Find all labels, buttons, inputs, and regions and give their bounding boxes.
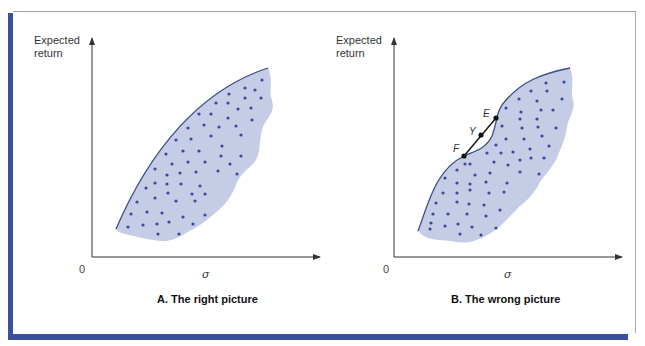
panel-a-origin-label: 0 (79, 263, 85, 275)
panel-a-caption: A. The right picture (157, 293, 258, 305)
panel-a-y-axis-label-line1: Expected (34, 34, 80, 46)
panel-a-x-axis-label: σ (202, 268, 210, 281)
panel-b-y-axis-label-line1: Expected (336, 34, 382, 46)
panel-a-y-axis-label-line2: return (34, 47, 63, 59)
point-f-marker (461, 153, 466, 158)
panel-a-feasible-region (116, 68, 273, 241)
point-e-marker (493, 115, 498, 120)
point-f-label: F (453, 143, 459, 154)
panel-b-x-axis-label: σ (504, 268, 512, 281)
point-e-label: E (483, 108, 490, 119)
point-y-marker (478, 132, 483, 137)
panel-b-caption: B. The wrong picture (451, 293, 560, 305)
point-y-label: Y (469, 126, 476, 137)
panel-b-feasible-region (418, 68, 574, 243)
panel-b-y-axis-label-line2: return (336, 47, 365, 59)
panel-b-origin-label: 0 (383, 263, 389, 275)
panel-a (92, 38, 320, 257)
panel-b (394, 38, 622, 257)
